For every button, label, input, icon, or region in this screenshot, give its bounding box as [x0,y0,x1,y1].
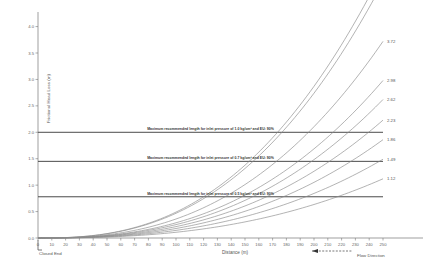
svg-text:140: 140 [228,242,236,247]
svg-text:130: 130 [214,242,222,247]
svg-text:40: 40 [91,242,96,247]
svg-text:4.0: 4.0 [28,24,34,29]
svg-text:60: 60 [118,242,123,247]
svg-text:50: 50 [105,242,110,247]
svg-text:Maximum recommended length for: Maximum recommended length for inlet pre… [147,127,275,131]
svg-text:0.0: 0.0 [28,236,34,241]
series-curve-5 [38,100,383,238]
svg-text:210: 210 [324,242,332,247]
svg-text:Maximum recommended length for: Maximum recommended length for inlet pre… [147,192,275,196]
svg-text:3.0: 3.0 [28,77,34,82]
end-label-1p49: 1.49 [387,157,396,162]
svg-text:240: 240 [366,242,374,247]
svg-text:2.0: 2.0 [28,130,34,135]
end-label-3p72: 3.72 [387,39,396,44]
svg-text:Maximum recommended length for: Maximum recommended length for inlet pre… [147,156,275,160]
svg-text:170: 170 [269,242,277,247]
series-curves-group [38,0,383,238]
svg-text:70: 70 [132,242,137,247]
svg-text:30: 30 [77,242,82,247]
flow-direction-arrow [312,249,352,253]
svg-text:20: 20 [63,242,68,247]
svg-text:110: 110 [186,242,193,247]
flow-direction-label: Flow Direction [357,253,385,258]
svg-text:2.5: 2.5 [28,103,34,108]
end-label-2p62: 2.62 [387,97,396,102]
svg-text:160: 160 [255,242,263,247]
series-curve-2 [38,0,383,238]
series-curve-6 [38,120,383,238]
axes-group [38,12,423,238]
svg-text:10: 10 [49,242,54,247]
chart-plot-area: 0102030405060708090100110120130140150160… [0,0,427,272]
series-curve-9 [38,179,383,238]
end-label-1p12: 1.12 [387,176,396,181]
svg-text:1.0: 1.0 [28,183,34,188]
svg-text:180: 180 [283,242,291,247]
chart-screenshot: 0102030405060708090100110120130140150160… [0,0,427,272]
end-label-2p98: 2.98 [387,78,396,83]
end-label-2p23: 2.23 [387,118,396,123]
series-curve-7 [38,140,383,238]
svg-text:200: 200 [311,242,319,247]
svg-text:230: 230 [352,242,360,247]
svg-text:100: 100 [173,242,181,247]
svg-text:0.5: 0.5 [28,209,34,214]
series-end-labels-group: 5.074.843.722.982.622.231.861.491.12 [387,0,396,181]
svg-text:220: 220 [338,242,346,247]
svg-text:90: 90 [160,242,165,247]
y-tick-group: 0.00.51.01.52.02.53.03.54.0 [28,24,38,240]
svg-text:190: 190 [297,242,305,247]
closed-end-label: Closed End [39,251,62,256]
series-curve-1 [38,0,383,238]
reference-lines-group [38,132,383,196]
series-curve-3 [38,41,383,238]
end-label-1p86: 1.86 [387,137,396,142]
svg-text:250: 250 [380,242,388,247]
x-axis-title: Distance (m) [222,250,248,255]
frictional-head-loss-chart: 0102030405060708090100110120130140150160… [0,0,427,272]
svg-text:120: 120 [200,242,208,247]
y-axis-title: Frictional Head Loss (m) [46,39,51,159]
svg-text:1.5: 1.5 [28,156,34,161]
svg-text:80: 80 [146,242,151,247]
x-tick-group: 0102030405060708090100110120130140150160… [37,238,387,247]
svg-text:150: 150 [242,242,250,247]
svg-text:3.5: 3.5 [28,51,34,56]
